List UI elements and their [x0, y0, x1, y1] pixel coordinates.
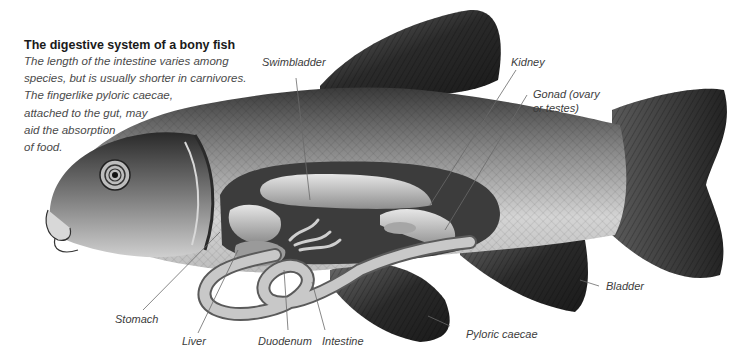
tail-fin	[612, 89, 727, 278]
dorsal-fin	[320, 10, 501, 96]
diagram-stage: The digestive system of a bony fish The …	[0, 0, 745, 362]
caption-body: The length of the intestine varies among…	[24, 53, 264, 156]
caption: The digestive system of a bony fish The …	[24, 37, 264, 156]
kidney-organ	[384, 222, 416, 234]
caption-line: species, but is usually shorter in carni…	[24, 70, 264, 87]
caption-title: The digestive system of a bony fish	[24, 37, 264, 53]
label-swimbladder: Swimbladder	[262, 56, 326, 69]
label-gonad-line1: Gonad (ovary	[533, 88, 600, 101]
label-gonad-line2: or testes)	[533, 102, 579, 115]
label-pyloric-caecae: Pyloric caecae	[466, 328, 538, 341]
caption-line: of food.	[24, 139, 264, 156]
caption-line: attached to the gut, may	[24, 105, 264, 122]
label-liver: Liver	[182, 335, 206, 348]
caption-line: aid the absorption	[24, 122, 264, 139]
label-bladder: Bladder	[606, 280, 644, 293]
fish-eye	[100, 160, 130, 190]
caption-line: The fingerlike pyloric caecae,	[24, 87, 264, 104]
label-duodenum: Duodenum	[258, 335, 312, 348]
label-stomach: Stomach	[115, 313, 158, 326]
caption-line: The length of the intestine varies among	[24, 53, 264, 70]
label-intestine: Intestine	[322, 335, 364, 348]
label-kidney: Kidney	[511, 56, 545, 69]
